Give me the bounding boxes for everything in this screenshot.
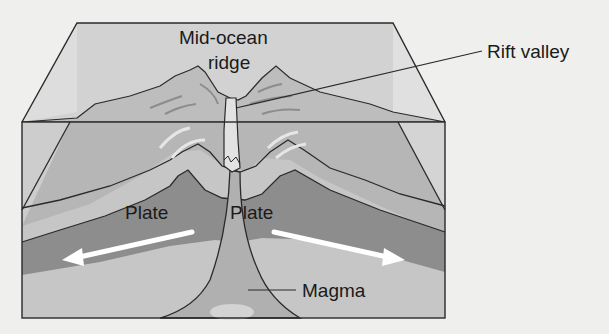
plate-right-label: Plate: [230, 202, 273, 223]
plate-left-label: Plate: [125, 202, 168, 223]
rift-valley-label: Rift valley: [487, 41, 569, 62]
mid-ocean-ridge-label-line2: ridge: [208, 52, 250, 73]
mid-ocean-ridge-label-line1: Mid-ocean: [179, 27, 268, 48]
magma-label: Magma: [302, 280, 365, 301]
